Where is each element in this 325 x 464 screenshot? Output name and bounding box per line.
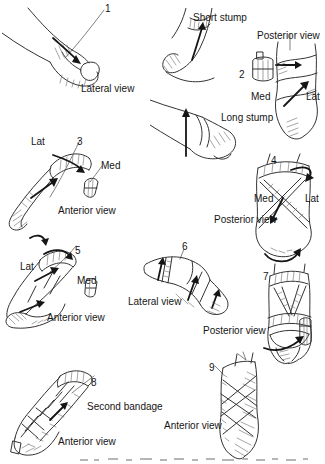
- figure-7-number: 7: [263, 272, 269, 282]
- figure-4-caption: Posterior view: [214, 215, 277, 225]
- figure-2-lat-label: Lat: [306, 92, 320, 102]
- short-stump-label: Short stump: [193, 13, 247, 23]
- figure-1-caption: Lateral view: [81, 84, 134, 94]
- figure-1-number: 1: [105, 4, 111, 14]
- long-stump-label: Long stump: [221, 113, 273, 123]
- figure-7-caption: Posterior view: [203, 326, 266, 336]
- figure-6-number: 6: [182, 242, 188, 252]
- cropped-caption-remnant: [60, 455, 320, 464]
- figure-3-lat-label: Lat: [31, 137, 45, 147]
- figure-8-number: 8: [91, 378, 97, 388]
- figure-6-illustration: [142, 246, 237, 321]
- bandage-roll-icon: [253, 52, 273, 81]
- figure-9-illustration: [195, 352, 265, 464]
- figure-5-number: 5: [75, 246, 81, 256]
- figure-9-number: 9: [209, 363, 215, 373]
- figure-8-illustration: [8, 362, 123, 462]
- figure-2-med-label: Med: [251, 92, 270, 102]
- figure-4-illustration: [245, 152, 325, 266]
- figure-4-lat-label: Lat: [305, 194, 319, 204]
- figure-1-illustration: [2, 2, 137, 94]
- figure-3-number: 3: [77, 137, 83, 147]
- second-bandage-label: Second bandage: [87, 402, 163, 412]
- figure-5-med-label: Med: [77, 276, 96, 286]
- figure-3-illustration: [5, 136, 125, 234]
- figure-3-caption: Anterior view: [58, 206, 116, 216]
- figure-5-caption: Anterior view: [47, 313, 105, 323]
- figure-4-number: 4: [271, 156, 277, 166]
- figure-5-lat-label: Lat: [20, 262, 34, 272]
- figure-3-med-label: Med: [101, 161, 120, 171]
- stump-bandaging-diagram: 1 Lateral view: [0, 0, 325, 464]
- figure-2-number: 2: [239, 70, 245, 80]
- figure-6-caption: Lateral view: [128, 297, 181, 307]
- figure-2-view-label: Posterior view: [257, 31, 320, 41]
- figure-8-caption: Anterior view: [58, 437, 116, 447]
- figure-4-med-label: Med: [254, 194, 273, 204]
- figure-9-caption: Anterior view: [164, 421, 222, 431]
